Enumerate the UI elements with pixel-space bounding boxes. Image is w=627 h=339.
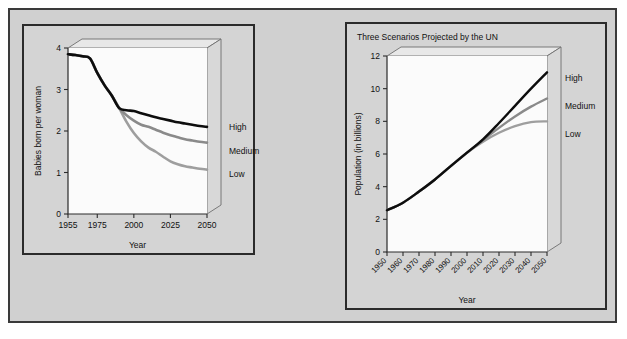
svg-text:2025: 2025 bbox=[161, 220, 180, 230]
svg-text:2010: 2010 bbox=[465, 256, 484, 275]
svg-text:2000: 2000 bbox=[449, 256, 468, 275]
svg-text:4: 4 bbox=[56, 43, 61, 53]
svg-text:2000: 2000 bbox=[124, 220, 143, 230]
svg-text:Year: Year bbox=[129, 240, 146, 250]
legend-label-high-left: High bbox=[229, 122, 246, 132]
svg-text:2020: 2020 bbox=[481, 256, 500, 275]
svg-text:4: 4 bbox=[375, 182, 380, 192]
legend-label-low-left: Low bbox=[229, 169, 245, 179]
figure-root: 0123419551975200020252050YearBabies born… bbox=[0, 0, 627, 339]
legend-label-low-right: Low bbox=[565, 129, 581, 139]
svg-text:1970: 1970 bbox=[401, 256, 420, 275]
svg-text:1960: 1960 bbox=[385, 256, 404, 275]
svg-text:2: 2 bbox=[375, 214, 380, 224]
svg-text:2050: 2050 bbox=[198, 220, 217, 230]
svg-text:1975: 1975 bbox=[88, 220, 107, 230]
fertility-chart-svg: 0123419551975200020252050YearBabies born… bbox=[24, 26, 253, 253]
svg-text:0: 0 bbox=[375, 247, 380, 257]
svg-text:12: 12 bbox=[371, 51, 381, 61]
svg-text:2040: 2040 bbox=[513, 256, 532, 275]
panel-fertility-chart: 0123419551975200020252050YearBabies born… bbox=[22, 24, 255, 255]
svg-text:1: 1 bbox=[56, 168, 61, 178]
panel-population-chart: Three Scenarios Projected by the UN 0246… bbox=[345, 22, 607, 310]
svg-text:1950: 1950 bbox=[369, 256, 388, 275]
svg-text:2030: 2030 bbox=[497, 256, 516, 275]
population-chart-svg: 0246810121950196019701980199020002010202… bbox=[347, 24, 605, 308]
legend-label-medium-left: Medium bbox=[229, 146, 259, 156]
svg-text:10: 10 bbox=[371, 84, 381, 94]
svg-text:1990: 1990 bbox=[433, 256, 452, 275]
legend-label-medium-right: Medium bbox=[565, 101, 595, 111]
svg-text:8: 8 bbox=[375, 116, 380, 126]
svg-text:1980: 1980 bbox=[417, 256, 436, 275]
svg-text:Population (in billions): Population (in billions) bbox=[353, 112, 363, 195]
svg-text:0: 0 bbox=[56, 209, 61, 219]
svg-text:Year: Year bbox=[458, 295, 475, 305]
svg-text:6: 6 bbox=[375, 149, 380, 159]
svg-text:1955: 1955 bbox=[59, 220, 78, 230]
svg-text:3: 3 bbox=[56, 85, 61, 95]
svg-text:2050: 2050 bbox=[529, 256, 548, 275]
svg-text:Babies born per woman: Babies born per woman bbox=[33, 86, 43, 176]
legend-label-high-right: High bbox=[565, 73, 582, 83]
svg-text:2: 2 bbox=[56, 126, 61, 136]
